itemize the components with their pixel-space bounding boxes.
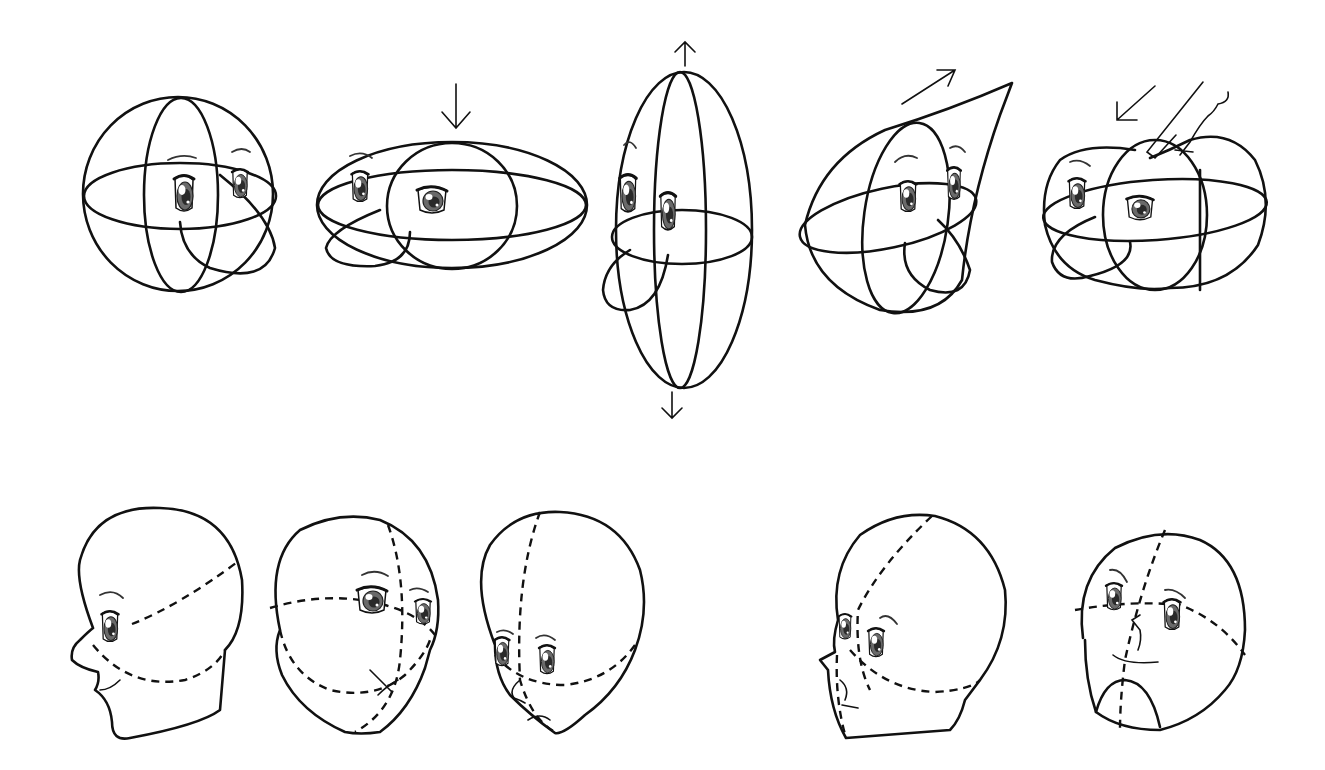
eye-icon xyxy=(232,169,248,197)
panel-foreshortened-front-head xyxy=(1075,530,1245,730)
eye-icon xyxy=(495,637,510,665)
panel-looking-up-head xyxy=(481,512,644,733)
eye-icon xyxy=(1127,196,1154,220)
arrow-down-icon xyxy=(442,84,470,128)
head-construction-diagram xyxy=(0,0,1325,770)
panel-three-quarter-up-profile-head xyxy=(820,515,1006,738)
eye-icon xyxy=(1069,178,1086,208)
eye-icon xyxy=(868,628,884,656)
eye-icon xyxy=(415,599,431,624)
arrow-down-icon xyxy=(662,392,682,418)
eye-icon xyxy=(174,175,194,211)
eye-icon xyxy=(357,587,387,613)
panel-profile-left-head xyxy=(72,508,243,739)
eye-icon xyxy=(102,611,119,641)
panel-basic-sphere xyxy=(83,97,276,292)
eye-icon xyxy=(352,171,369,201)
panel-pulled-sphere xyxy=(794,70,1012,319)
arrow-up-icon xyxy=(675,42,695,66)
eye-icon xyxy=(1106,583,1122,610)
eye-icon xyxy=(620,175,637,212)
eye-icon xyxy=(947,167,961,199)
panel-pressed-sphere xyxy=(1041,82,1269,290)
panel-stretched-sphere xyxy=(603,42,752,418)
arrow-up-right-icon xyxy=(902,70,955,104)
eye-icon xyxy=(900,181,917,211)
eye-icon xyxy=(839,614,852,639)
eye-icon xyxy=(539,645,555,673)
eye-icon xyxy=(1164,599,1181,629)
eye-icon xyxy=(660,193,676,230)
eye-icon xyxy=(417,187,447,213)
hand-icon xyxy=(1147,82,1228,158)
arrow-down-left-icon xyxy=(1117,86,1155,120)
panel-three-quarter-down-head xyxy=(270,517,438,734)
panel-squashed-sphere xyxy=(317,84,587,269)
